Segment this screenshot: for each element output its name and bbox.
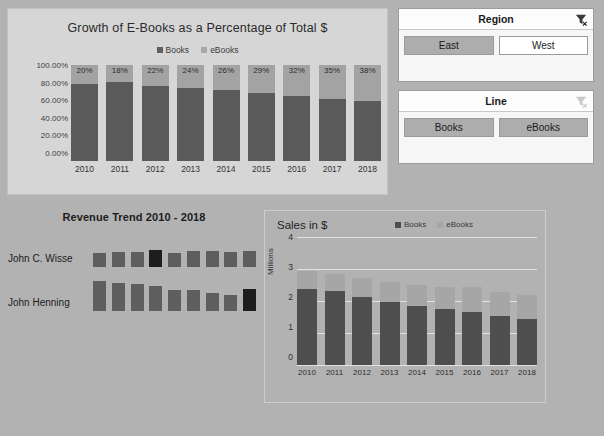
sales-chart-y-axis: 43210	[277, 237, 293, 365]
sparkline-bar	[168, 290, 181, 311]
sparkline-bar	[187, 251, 200, 267]
percent-bar-segment-books	[354, 101, 381, 161]
sales-bar[interactable]	[517, 295, 537, 365]
legend-item-ebooks: eBooks	[437, 220, 473, 229]
sales-chart-bars[interactable]	[297, 237, 537, 365]
sales-x-tick: 2015	[435, 368, 455, 377]
sales-bar[interactable]	[352, 278, 372, 365]
percent-bar-segment-books	[106, 82, 133, 161]
percent-x-tick: 2017	[319, 164, 346, 174]
sales-bar-segment-ebooks	[407, 285, 427, 306]
sales-bar[interactable]	[380, 282, 400, 365]
revenue-trend-title: Revenue Trend 2010 - 2018	[8, 207, 260, 223]
percent-y-tick: 100.00%	[36, 62, 68, 70]
percent-bar-segment-ebooks: 20%	[71, 65, 98, 84]
percent-bar-segment-books	[177, 88, 204, 161]
slicer-region[interactable]: Region EastWest	[398, 8, 594, 82]
percent-y-tick: 80.00%	[41, 80, 68, 88]
percent-bar[interactable]: 26%	[213, 65, 240, 161]
sales-chart-panel[interactable]: Sales in $ Books eBooks Millions 43210 2…	[264, 210, 546, 403]
slicer-line-header: Line	[399, 91, 593, 112]
percent-x-tick: 2010	[71, 164, 98, 174]
percent-chart-x-axis: 201020112012201320142015201620172018	[71, 164, 381, 174]
percent-y-tick: 0.00%	[45, 150, 68, 158]
sales-bar-segment-ebooks	[435, 287, 455, 310]
percent-x-tick: 2018	[354, 164, 381, 174]
percent-bar-segment-books	[142, 86, 169, 161]
percent-bar-label: 22%	[142, 66, 169, 75]
clear-filter-icon[interactable]	[574, 12, 589, 27]
sales-bar[interactable]	[490, 292, 510, 365]
sales-y-tick: 3	[288, 263, 293, 271]
slicer-button-east[interactable]: East	[404, 36, 494, 55]
slicer-line-items[interactable]: BookseBooks	[399, 112, 593, 143]
percent-y-tick: 20.00%	[41, 132, 68, 140]
percent-bar-segment-ebooks: 32%	[283, 65, 310, 96]
sales-x-tick: 2018	[517, 368, 537, 377]
percent-chart-bars[interactable]: 20%18%22%24%26%29%32%35%38%	[71, 65, 381, 161]
slicer-region-header: Region	[399, 9, 593, 30]
sales-bar-segment-ebooks	[325, 274, 345, 290]
percent-chart-y-axis: 100.00%80.00%60.00%40.00%20.00%0.00%	[16, 65, 68, 161]
legend-label-books: Books	[404, 220, 426, 229]
percent-x-tick: 2011	[106, 164, 133, 174]
sales-bar[interactable]	[297, 271, 317, 365]
sparkline-bar	[168, 253, 181, 267]
percent-bar[interactable]: 32%	[283, 65, 310, 161]
percent-bar[interactable]: 20%	[71, 65, 98, 161]
sales-x-tick: 2017	[490, 368, 510, 377]
sales-bar-segment-books	[380, 302, 400, 365]
percent-bar[interactable]: 35%	[319, 65, 346, 161]
percent-chart-legend: Books eBooks	[8, 45, 387, 55]
sales-bar[interactable]	[325, 274, 345, 365]
sales-bar-segment-ebooks	[517, 295, 537, 319]
sparkline-row-label: John C. Wisse	[8, 253, 93, 267]
percent-bar-label: 32%	[283, 66, 310, 75]
sales-y-tick: 4	[288, 233, 293, 241]
slicer-button-west[interactable]: West	[499, 36, 589, 55]
slicer-button-ebooks[interactable]: eBooks	[499, 118, 589, 137]
percent-bar[interactable]: 38%	[354, 65, 381, 161]
sales-bar[interactable]	[462, 287, 482, 365]
sparkline-bar	[112, 252, 125, 267]
slicer-region-items[interactable]: EastWest	[399, 30, 593, 61]
sales-bar-segment-ebooks	[380, 282, 400, 302]
revenue-trend-panel[interactable]: Revenue Trend 2010 - 2018 John C. WisseJ…	[8, 207, 260, 317]
sparkline-bar	[206, 251, 219, 267]
slicer-line[interactable]: Line BookseBooks	[398, 90, 594, 164]
sales-x-tick: 2016	[462, 368, 482, 377]
slicer-button-books[interactable]: Books	[404, 118, 494, 137]
legend-swatch-books-icon	[157, 47, 163, 53]
sparkline-row: John Henning	[8, 277, 260, 311]
legend-item-books: Books	[395, 220, 426, 229]
sales-bar[interactable]	[407, 285, 427, 365]
sales-y-tick: 1	[288, 323, 293, 331]
sparkline-cells[interactable]	[93, 235, 260, 267]
percent-bar[interactable]: 29%	[248, 65, 275, 161]
sales-x-tick: 2013	[380, 368, 400, 377]
slicer-region-title: Region	[478, 13, 514, 25]
clear-filter-icon[interactable]	[574, 94, 589, 109]
legend-label-ebooks: eBooks	[210, 45, 238, 55]
legend-label-ebooks: eBooks	[446, 220, 473, 229]
percent-bar[interactable]: 18%	[106, 65, 133, 161]
sales-y-tick: 2	[288, 293, 293, 301]
sales-chart-legend: Books eBooks	[395, 220, 473, 229]
sales-chart-y-axis-title: Millions	[266, 248, 275, 275]
percent-bar[interactable]: 24%	[177, 65, 204, 161]
percent-x-tick: 2014	[213, 164, 240, 174]
percent-bar[interactable]: 22%	[142, 65, 169, 161]
sparkline-bar	[224, 252, 237, 267]
sparkline-bar	[149, 250, 162, 267]
sales-bar[interactable]	[435, 287, 455, 365]
sparkline-cells[interactable]	[93, 279, 260, 311]
sparkline-row: John C. Wisse	[8, 233, 260, 267]
percent-bar-segment-books	[319, 99, 346, 161]
sales-bar-segment-books	[462, 312, 482, 365]
legend-swatch-ebooks-icon	[437, 222, 443, 228]
sales-x-tick: 2011	[325, 368, 345, 377]
dashboard-canvas: Growth of E-Books as a Percentage of Tot…	[0, 0, 604, 436]
percent-chart-panel[interactable]: Growth of E-Books as a Percentage of Tot…	[7, 8, 388, 195]
sales-bar-segment-books	[435, 309, 455, 365]
slicer-line-title: Line	[485, 95, 507, 107]
